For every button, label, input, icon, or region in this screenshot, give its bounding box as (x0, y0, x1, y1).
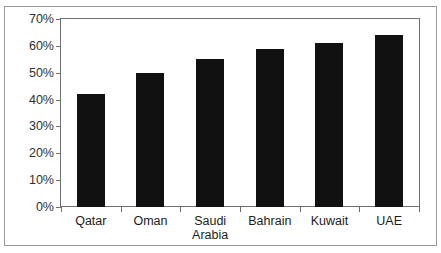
x-axis-tick-label: UAE (353, 214, 425, 228)
x-axis-tick-mark (300, 207, 301, 212)
y-axis-tick-label: 70% (6, 12, 54, 26)
y-axis-tick-mark (56, 19, 61, 20)
bar-slot (300, 19, 360, 207)
bar-slot (180, 19, 240, 207)
y-axis-tick-label: 0% (6, 200, 54, 214)
y-axis-labels: 70%60%50%40%30%20%10%0% (0, 0, 54, 253)
y-axis-tick-mark (56, 73, 61, 74)
x-axis-tick-mark (180, 207, 181, 212)
bar (77, 94, 105, 207)
x-axis-tick-mark (121, 207, 122, 212)
bar (375, 35, 403, 207)
x-axis-tick-mark (359, 207, 360, 212)
y-axis-tick-mark (56, 126, 61, 127)
y-axis-tick-label: 20% (6, 146, 54, 160)
chart-title-strip (0, 0, 441, 6)
x-axis-tick-mark (240, 207, 241, 212)
x-axis-tick-mark (419, 207, 420, 212)
y-axis-tick-mark (56, 46, 61, 47)
bar (196, 59, 224, 207)
bar-slot (61, 19, 121, 207)
bar (136, 73, 164, 207)
y-axis-tick-label: 50% (6, 66, 54, 80)
bar-slot (359, 19, 419, 207)
bars-container (61, 19, 419, 207)
y-axis-tick-mark (56, 180, 61, 181)
bar-chart-figure: 70%60%50%40%30%20%10%0% QatarOmanSaudi A… (0, 0, 441, 253)
y-axis-tick-mark (56, 100, 61, 101)
y-axis-tick-label: 30% (6, 119, 54, 133)
y-axis-tick-label: 40% (6, 93, 54, 107)
bar (315, 43, 343, 207)
y-axis-tick-mark (56, 153, 61, 154)
bar-slot (121, 19, 181, 207)
x-axis-tick-mark (61, 207, 62, 212)
y-axis-tick-label: 10% (6, 173, 54, 187)
y-axis-tick-label: 60% (6, 39, 54, 53)
bar (256, 49, 284, 207)
bar-slot (240, 19, 300, 207)
